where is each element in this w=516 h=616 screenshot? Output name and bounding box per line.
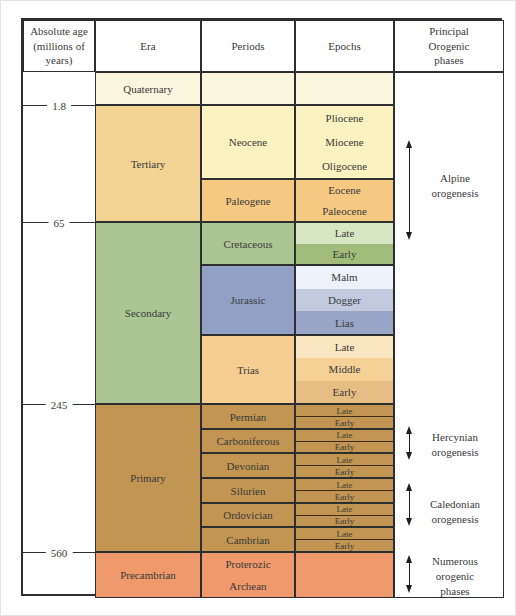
period-cell-silurien: Silurien — [201, 478, 295, 503]
age-marker-65-label: 65 — [49, 217, 70, 229]
epoch-cell-neocene: Pliocene Miocene Oligocene — [295, 105, 394, 179]
epoch-label-pliocene: Pliocene — [326, 112, 364, 124]
age-marker-560: 560 — [23, 552, 95, 553]
epoch-band-carboniferous-early: Early — [296, 442, 393, 453]
epoch-cell-permian: Late Early — [295, 404, 394, 429]
epoch-band-lias: Lias — [296, 311, 393, 334]
period-label-archean: Archean — [229, 580, 266, 592]
header-era: Era — [95, 20, 201, 72]
era-label-quaternary: Quaternary — [123, 83, 172, 95]
era-cell-tertiary: Tertiary — [95, 105, 201, 222]
epoch-cell-quaternary-empty — [295, 72, 394, 105]
era-label-primary: Primary — [130, 472, 165, 484]
epoch-band-silurien-late: Late — [296, 479, 393, 491]
orogenic-label-caledonian: Caledonian orogenesis — [413, 497, 497, 527]
epoch-band-devonian-late: Late — [296, 454, 393, 466]
epoch-label-eocene: Eocene — [328, 184, 360, 196]
epoch-label-paleocene: Paleocene — [322, 205, 367, 217]
epoch-band-malm: Malm — [296, 266, 393, 289]
header-absolute-age-label: Absolute age (millions of years) — [30, 24, 88, 68]
header-epochs-label: Epochs — [328, 40, 360, 52]
hercynian-orogenesis-arrow-icon — [406, 426, 413, 460]
epoch-cell-devonian: Late Early — [295, 453, 394, 478]
epoch-band-trias-early: Early — [296, 381, 393, 403]
geologic-time-table: Absolute age (millions of years) Era Per… — [21, 18, 502, 596]
epoch-band-cambrian-early: Early — [296, 540, 393, 551]
period-label-jurassic: Jurassic — [231, 294, 266, 306]
era-cell-quaternary: Quaternary — [95, 72, 201, 105]
period-cell-carboniferous: Carboniferous — [201, 429, 295, 453]
period-label-silurien: Silurien — [231, 485, 266, 497]
epoch-cell-precambrian-empty — [295, 552, 394, 598]
period-cell-ordovician: Ordovician — [201, 503, 295, 527]
age-marker-245-label: 245 — [46, 399, 73, 411]
header-periods-label: Periods — [232, 40, 265, 52]
age-marker-245: 245 — [23, 404, 95, 405]
era-label-secondary: Secondary — [125, 307, 171, 319]
period-label-neocene: Neocene — [229, 136, 267, 148]
orogenic-column: Alpine orogenesis Hercynian orogenesis C… — [394, 72, 504, 598]
header-orogenic-label: Principal Orogenic phases — [429, 24, 470, 68]
era-cell-precambrian: Precambrian — [95, 552, 201, 598]
era-label-precambrian: Precambrian — [120, 569, 176, 581]
age-marker-1-8-label: 1.8 — [47, 100, 71, 112]
period-cell-quaternary-empty — [201, 72, 295, 105]
epoch-cell-jurassic: Malm Dogger Lias — [295, 265, 394, 335]
orogenic-label-hercynian: Hercynian orogenesis — [413, 430, 497, 460]
period-label-permian: Permian — [230, 411, 267, 423]
period-cell-paleogene: Paleogene — [201, 179, 295, 222]
header-periods: Periods — [201, 20, 295, 72]
epoch-cell-cretaceous: Late Early — [295, 222, 394, 265]
period-label-proterozic: Proterozic — [225, 558, 270, 570]
epoch-band-cretaceous-late: Late — [296, 223, 393, 244]
header-epochs: Epochs — [295, 20, 394, 72]
period-cell-precambrian: Proterozic Archean — [201, 552, 295, 598]
orogenic-label-numerous: Numerous orogenic phases — [413, 554, 497, 600]
orogenic-label-alpine: Alpine orogenesis — [413, 171, 497, 201]
epoch-label-miocene: Miocene — [325, 136, 363, 148]
period-cell-cambrian: Cambrian — [201, 527, 295, 552]
epoch-band-permian-late: Late — [296, 405, 393, 417]
period-label-cretaceous: Cretaceous — [224, 238, 273, 250]
era-cell-primary: Primary — [95, 404, 201, 552]
epoch-band-carboniferous-late: Late — [296, 430, 393, 442]
numerous-orogenic-arrow-icon — [406, 555, 413, 593]
period-label-carboniferous: Carboniferous — [217, 435, 280, 447]
period-cell-cretaceous: Cretaceous — [201, 222, 295, 265]
period-cell-neocene: Neocene — [201, 105, 295, 179]
epoch-cell-paleogene: Eocene Paleocene — [295, 179, 394, 222]
period-label-devonian: Devonian — [227, 460, 270, 472]
caledonian-orogenesis-arrow-icon — [406, 483, 413, 526]
age-marker-65: 65 — [23, 222, 95, 223]
epoch-cell-trias: Late Middle Early — [295, 335, 394, 404]
epoch-band-cambrian-late: Late — [296, 528, 393, 540]
geologic-time-scale-page: Absolute age (millions of years) Era Per… — [0, 0, 516, 616]
epoch-cell-carboniferous: Late Early — [295, 429, 394, 453]
header-absolute-age: Absolute age (millions of years) — [23, 20, 95, 72]
epoch-band-devonian-early: Early — [296, 466, 393, 477]
period-label-cambrian: Cambrian — [226, 534, 269, 546]
epoch-band-ordovician-early: Early — [296, 516, 393, 527]
epoch-band-trias-middle: Middle — [296, 358, 393, 380]
epoch-cell-ordovician: Late Early — [295, 503, 394, 527]
epoch-cell-silurien: Late Early — [295, 478, 394, 503]
era-label-tertiary: Tertiary — [131, 158, 166, 170]
epoch-band-cretaceous-early: Early — [296, 244, 393, 265]
epoch-band-permian-early: Early — [296, 417, 393, 428]
header-orogenic: Principal Orogenic phases — [394, 20, 504, 72]
epoch-band-ordovician-late: Late — [296, 504, 393, 516]
epoch-band-trias-late: Late — [296, 336, 393, 358]
period-cell-jurassic: Jurassic — [201, 265, 295, 335]
period-label-paleogene: Paleogene — [225, 195, 270, 207]
period-cell-devonian: Devonian — [201, 453, 295, 478]
epoch-band-dogger: Dogger — [296, 289, 393, 312]
age-marker-1-8: 1.8 — [23, 105, 95, 106]
period-label-ordovician: Ordovician — [223, 509, 272, 521]
period-cell-trias: Trias — [201, 335, 295, 404]
period-label-trias: Trias — [237, 364, 259, 376]
alpine-orogenesis-arrow-icon — [406, 140, 413, 240]
epoch-label-oligocene: Oligocene — [322, 160, 367, 172]
period-cell-permian: Permian — [201, 404, 295, 429]
header-era-label: Era — [140, 40, 155, 52]
epoch-cell-cambrian: Late Early — [295, 527, 394, 552]
